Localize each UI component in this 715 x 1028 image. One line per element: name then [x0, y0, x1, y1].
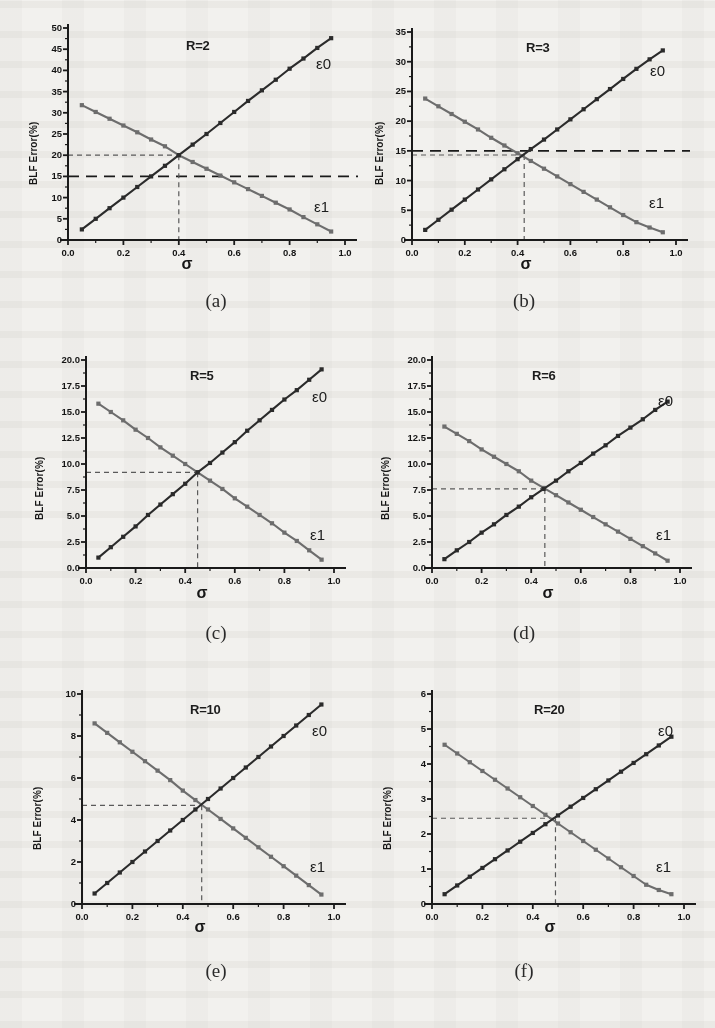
data-point-e1-c-17	[307, 548, 311, 552]
data-point-e0-f-5	[506, 848, 510, 852]
data-point-e0-b-12	[582, 107, 586, 111]
y-tick-label-c-0: 0.0	[46, 562, 80, 573]
x-tick-label-f-4: 0.8	[616, 911, 652, 922]
data-point-e0-f-6	[518, 840, 522, 844]
data-point-e0-f-7	[531, 831, 535, 835]
data-point-e0-a-6	[163, 164, 167, 168]
plot-area-e	[0, 660, 358, 1028]
data-point-e1-b-9	[542, 167, 546, 171]
data-point-e0-a-9	[204, 132, 208, 136]
data-point-e0-b-9	[542, 137, 546, 141]
data-point-e0-c-8	[196, 470, 200, 474]
data-point-e0-d-1	[455, 548, 459, 552]
data-point-e1-f-7	[531, 804, 535, 808]
data-point-e0-c-18	[320, 367, 324, 371]
data-point-e0-e-1	[105, 881, 109, 885]
data-point-e1-e-6	[168, 778, 172, 782]
data-point-e0-e-8	[193, 807, 197, 811]
x-tick-label-b-5: 1.0	[658, 247, 694, 258]
y-tick-label-f-0: 0	[392, 898, 426, 909]
data-point-e1-b-12	[582, 190, 586, 194]
data-point-e1-a-6	[163, 144, 167, 148]
data-point-e1-a-8	[191, 160, 195, 164]
data-point-e1-d-9	[554, 493, 558, 497]
x-tick-label-a-4: 0.8	[272, 247, 308, 258]
data-point-e0-b-4	[476, 187, 480, 191]
data-point-e1-e-16	[294, 874, 298, 878]
y-tick-label-c-4: 10.0	[46, 458, 80, 469]
data-point-e0-e-10	[219, 786, 223, 790]
data-point-e0-d-9	[554, 479, 558, 483]
data-point-e0-a-0	[80, 227, 84, 231]
y-tick-label-f-5: 5	[392, 723, 426, 734]
x-tick-label-d-5: 1.0	[662, 575, 698, 586]
data-point-e1-a-0	[80, 103, 84, 107]
x-tick-label-f-0: 0.0	[414, 911, 450, 922]
data-point-e1-e-11	[231, 826, 235, 830]
data-point-e1-e-15	[282, 864, 286, 868]
data-point-e0-c-0	[96, 556, 100, 560]
y-tick-label-b-7: 35	[372, 26, 406, 37]
data-point-e1-f-3	[480, 769, 484, 773]
data-point-e0-c-3	[134, 524, 138, 528]
data-point-e0-b-7	[516, 157, 520, 161]
data-point-e1-c-12	[245, 505, 249, 509]
series-label-e1-d: ε1	[656, 526, 671, 543]
y-tick-label-f-4: 4	[392, 758, 426, 769]
series-label-e0-b: ε0	[650, 62, 665, 79]
data-point-e1-b-0	[423, 96, 427, 100]
data-point-e0-b-5	[489, 177, 493, 181]
x-axis-label-c: σ	[190, 584, 214, 602]
panel-caption-d: (d)	[494, 622, 554, 644]
data-point-e1-f-10	[569, 830, 573, 834]
chart-panel-b: 051015202530350.00.20.40.60.81.0BLF Erro…	[358, 0, 715, 330]
panel-title-c: R=5	[190, 368, 214, 383]
panel-title-f: R=20	[534, 702, 565, 717]
data-point-e0-e-4	[143, 849, 147, 853]
panel-caption-b: (b)	[494, 290, 554, 312]
x-tick-label-d-0: 0.0	[414, 575, 450, 586]
data-point-e0-f-17	[657, 743, 661, 747]
data-point-e1-d-15	[628, 537, 632, 541]
y-tick-label-a-7: 35	[28, 86, 62, 97]
y-tick-label-a-6: 30	[28, 107, 62, 118]
data-point-e0-f-10	[569, 805, 573, 809]
data-point-e0-c-16	[295, 388, 299, 392]
data-point-e1-e-1	[105, 731, 109, 735]
x-tick-label-b-1: 0.2	[447, 247, 483, 258]
data-point-e1-d-3	[480, 447, 484, 451]
data-point-e1-e-4	[143, 759, 147, 763]
data-point-e1-a-3	[121, 123, 125, 127]
x-axis-label-e: σ	[188, 918, 212, 936]
y-tick-label-c-7: 17.5	[46, 380, 80, 391]
data-point-e1-b-15	[621, 213, 625, 217]
y-tick-label-e-4: 8	[42, 730, 76, 741]
data-point-e0-c-9	[208, 461, 212, 465]
data-point-e0-c-13	[258, 418, 262, 422]
y-axis-label-a: BLF Error(%)	[28, 122, 39, 185]
y-tick-label-a-1: 5	[28, 213, 62, 224]
x-tick-label-b-3: 0.6	[552, 247, 588, 258]
x-axis-label-a: σ	[175, 255, 199, 273]
data-point-e0-c-10	[220, 450, 224, 454]
y-tick-label-f-3: 3	[392, 793, 426, 804]
data-point-e1-a-1	[94, 110, 98, 114]
data-point-e1-c-9	[208, 479, 212, 483]
data-point-e0-b-3	[463, 197, 467, 201]
data-point-e0-d-12	[591, 452, 595, 456]
series-label-e0-a: ε0	[316, 55, 331, 72]
data-point-e0-c-1	[109, 545, 113, 549]
data-point-e0-a-17	[315, 46, 319, 50]
data-point-e1-c-4	[146, 436, 150, 440]
data-point-e0-e-9	[206, 797, 210, 801]
y-tick-label-a-8: 40	[28, 64, 62, 75]
data-point-e1-d-18	[666, 559, 670, 563]
data-point-e1-f-1	[455, 751, 459, 755]
data-point-e1-f-17	[657, 888, 661, 892]
y-tick-label-e-0: 0	[42, 898, 76, 909]
data-point-e0-e-3	[130, 860, 134, 864]
y-tick-label-d-0: 0.0	[392, 562, 426, 573]
data-point-e0-d-2	[467, 540, 471, 544]
data-point-e0-a-2	[107, 206, 111, 210]
data-point-e1-f-14	[619, 865, 623, 869]
